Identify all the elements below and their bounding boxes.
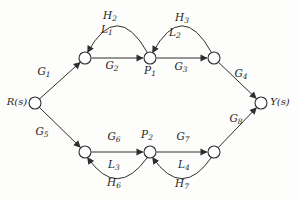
gain-label-g3: G3 <box>174 61 187 74</box>
gain-label-g1: G1 <box>37 66 50 79</box>
node-label-p1: P1 <box>144 65 156 78</box>
node-r <box>29 97 41 109</box>
gain-label-g7: G7 <box>176 131 189 144</box>
loop-label-l2: L2 <box>169 27 181 40</box>
gain-label-g2: G2 <box>105 60 118 73</box>
node-y <box>255 97 267 109</box>
node-p2 <box>144 146 156 158</box>
output-label-ys: Y(s) <box>270 97 290 109</box>
node-p1 <box>144 52 156 64</box>
feedback-label-h2: H2 <box>103 10 117 23</box>
feedback-label-h7: H7 <box>175 178 189 191</box>
input-label-rs: R(s) <box>7 97 27 109</box>
gain-label-g5: G5 <box>35 126 48 139</box>
node-2 <box>208 52 220 64</box>
feedback-label-h6: H6 <box>107 177 121 190</box>
loop-label-l4: L4 <box>178 159 190 172</box>
node-4 <box>208 146 220 158</box>
signal-flow-graph: R(s) Y(s) G1 G2 G3 G4 G5 G6 G7 G8 H2 L1 … <box>0 0 299 200</box>
node-3 <box>79 146 91 158</box>
feedback-arc-h2 <box>88 26 148 53</box>
loop-label-l1: L1 <box>101 24 113 37</box>
graph-canvas <box>0 0 299 200</box>
feedback-arc-h3 <box>153 26 212 53</box>
gain-label-g4: G4 <box>234 68 247 81</box>
node-1 <box>79 52 91 64</box>
feedback-label-h3: H3 <box>175 12 189 25</box>
gain-label-g6: G6 <box>107 131 120 144</box>
gain-label-g8: G8 <box>229 113 242 126</box>
node-label-p2: P2 <box>141 129 153 142</box>
loop-label-l3: L3 <box>108 159 120 172</box>
